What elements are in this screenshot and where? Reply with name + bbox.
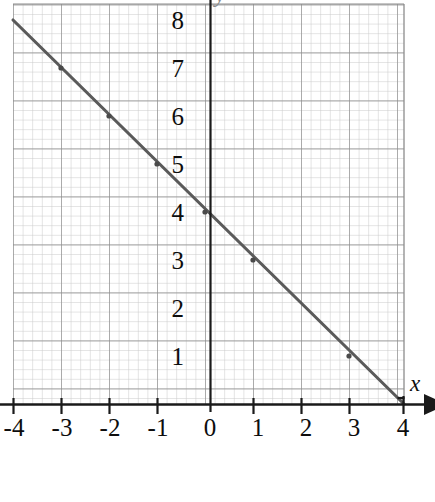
x-tick-label-2: 2 xyxy=(286,415,326,440)
graph-figure: 8 7 6 5 4 3 2 1 -4 -3 -2 -1 0 1 2 3 4 x … xyxy=(0,0,435,448)
x-tick-label-3: 3 xyxy=(334,415,374,440)
x-tick-label-0: 0 xyxy=(190,415,230,440)
y-tick-label-7: 7 xyxy=(160,56,184,81)
x-tick-label-1: 1 xyxy=(238,415,278,440)
y-tick-label-1: 1 xyxy=(160,344,184,369)
y-tick-label-4: 4 xyxy=(160,200,184,225)
x-tick-label-4: 4 xyxy=(383,415,423,440)
x-tick-label-neg3: -3 xyxy=(42,415,82,440)
y-tick-label-5: 5 xyxy=(160,152,184,177)
y-axis-label: y xyxy=(215,0,225,6)
y-tick-label-2: 2 xyxy=(160,296,184,321)
y-tick-label-8: 8 xyxy=(160,8,184,33)
coordinate-plane xyxy=(0,0,435,448)
x-tick-label-neg1: -1 xyxy=(138,415,178,440)
x-axis-label: x xyxy=(410,372,420,395)
y-tick-label-3: 3 xyxy=(160,248,184,273)
y-tick-label-6: 6 xyxy=(160,104,184,129)
question-part-block: (n) x -3 -2 -1 0 1 2 3 xyxy=(0,452,435,502)
x-tick-label-neg2: -2 xyxy=(90,415,130,440)
grid-layer xyxy=(13,4,404,404)
x-tick-label-neg4: -4 xyxy=(0,415,34,440)
